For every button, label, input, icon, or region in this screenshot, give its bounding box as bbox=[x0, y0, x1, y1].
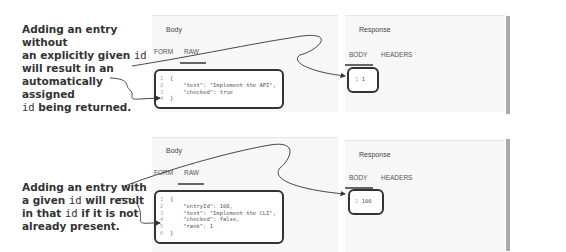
arrow-to-response bbox=[122, 144, 345, 194]
arrow-to-response bbox=[132, 35, 345, 76]
arrow-to-request bbox=[118, 198, 160, 223]
arrow-to-request bbox=[110, 78, 160, 99]
